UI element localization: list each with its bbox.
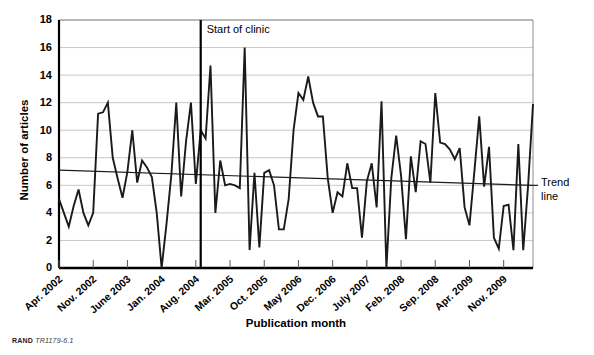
rand-logo-text: RAND: [12, 337, 33, 344]
figure-id: TR1179-6.1: [35, 337, 73, 344]
trend-line-label-line1: Trend: [541, 176, 569, 188]
y-tick-labels: 024681012141618: [40, 13, 53, 273]
y-tick-label: 8: [46, 151, 52, 163]
x-axis-title: Publication month: [246, 317, 346, 329]
y-tick-label: 4: [46, 206, 53, 218]
y-tick-label: 12: [40, 96, 52, 108]
y-tick-label: 10: [40, 124, 52, 136]
chart-figure: 024681012141618 Apr. 2002Nov. 2002June 2…: [0, 0, 594, 355]
y-tick-label: 2: [46, 234, 52, 246]
articles-per-month-line-chart: 024681012141618 Apr. 2002Nov. 2002June 2…: [0, 0, 594, 355]
y-axis-title: Number of articles: [18, 100, 30, 201]
y-tick-label: 0: [46, 261, 52, 273]
trend-line-label-line2: line: [541, 190, 558, 202]
figure-footer: RAND TR1179-6.1: [12, 337, 74, 344]
y-tick-label: 16: [40, 41, 52, 53]
x-tick-labels: Apr. 2002Nov. 2002June 2003Jan. 2004Aug.…: [22, 272, 510, 315]
y-tick-label: 6: [46, 179, 52, 191]
start-of-clinic-label: Start of clinic: [207, 23, 270, 35]
y-tick-label: 14: [40, 69, 53, 81]
y-tick-label: 18: [40, 13, 52, 25]
